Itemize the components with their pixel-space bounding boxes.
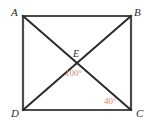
vertex-label-B: B bbox=[134, 7, 141, 18]
figure-canvas bbox=[0, 0, 152, 124]
vertex-label-C: C bbox=[136, 108, 143, 119]
geometry-figure: A B C D E 100° 40° bbox=[0, 0, 152, 124]
intersection-label-E: E bbox=[73, 49, 79, 59]
angle-label-DEC: 100° bbox=[65, 69, 82, 78]
vertex-label-D: D bbox=[11, 108, 19, 119]
angle-label-ACD: 40° bbox=[104, 97, 117, 106]
vertex-label-A: A bbox=[11, 7, 18, 18]
